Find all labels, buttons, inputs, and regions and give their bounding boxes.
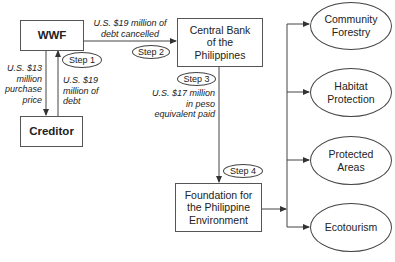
central-bank-line-2: of the	[207, 36, 233, 49]
creditor-box: Creditor	[20, 116, 83, 147]
peso-paid-label: U.S. $17 million in peso equivalent paid	[140, 88, 215, 120]
central-bank-line-3: Philippines	[195, 49, 246, 62]
foundation-line-3: Environment	[189, 214, 248, 227]
community-forestry-line-2: Forestry	[332, 26, 371, 39]
step-3-badge: Step 3	[177, 72, 216, 86]
step-1-badge: Step 1	[62, 52, 102, 68]
foundation-box: Foundation for the Philippine Environmen…	[175, 183, 262, 232]
habitat-protection-oval: Habitat Protection	[310, 68, 392, 117]
habitat-protection-line-1: Habitat	[334, 80, 367, 93]
foundation-line-2: the Philippine	[187, 201, 250, 214]
central-bank-line-1: Central Bank	[190, 24, 251, 37]
step-2-badge: Step 2	[132, 45, 170, 59]
foundation-line-1: Foundation for	[185, 189, 253, 202]
ecotourism-oval: Ecotourism	[310, 203, 392, 252]
habitat-protection-line-2: Protection	[327, 93, 374, 106]
protected-areas-line-1: Protected	[329, 148, 374, 161]
step-4-badge: Step 4	[223, 164, 263, 178]
community-forestry-oval: Community Forestry	[310, 2, 392, 50]
creditor-label: Creditor	[29, 125, 74, 138]
purchase-price-label: U.S. $13 million purchase price	[2, 63, 42, 105]
wwf-box: WWF	[20, 20, 84, 51]
central-bank-box: Central Bank of the Philippines	[177, 18, 263, 67]
ecotourism-label: Ecotourism	[325, 221, 378, 234]
community-forestry-line-1: Community	[324, 13, 377, 26]
debt-cancelled-label: U.S. $19 million of debt cancelled	[88, 18, 172, 39]
debt-label: U.S. $19 million of debt	[63, 75, 113, 107]
debt-for-nature-swap-diagram: WWF Creditor Central Bank of the Philipp…	[0, 0, 395, 262]
wwf-label: WWF	[38, 29, 67, 42]
protected-areas-line-2: Areas	[337, 161, 364, 174]
protected-areas-oval: Protected Areas	[310, 136, 392, 185]
